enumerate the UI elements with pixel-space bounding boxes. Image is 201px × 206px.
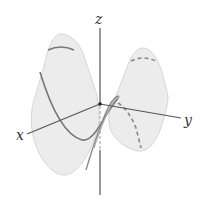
z-axis-label: z xyxy=(94,11,103,27)
saddle-surface-diagram: z x y xyxy=(0,0,201,206)
origin-point xyxy=(98,102,102,106)
y-axis-label: y xyxy=(183,112,193,128)
x-axis-label: x xyxy=(16,127,24,143)
surface-left-lobe xyxy=(31,34,99,175)
